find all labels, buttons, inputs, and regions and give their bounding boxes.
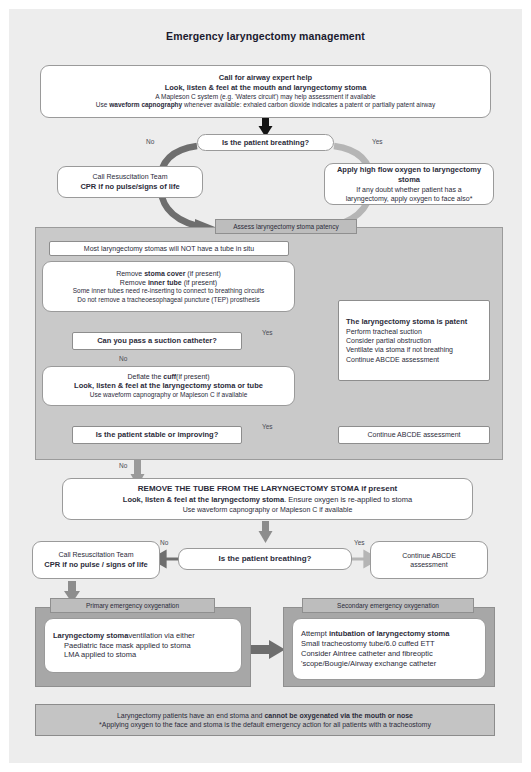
decision1-no-label: No: [146, 138, 154, 145]
stomas-no-tube-note-box: Most laryngectomy stomas will NOT have a…: [49, 241, 289, 256]
decision-is-patient-breathing-2: Is the patient breathing?: [178, 548, 352, 570]
patent-line3: Consider partial obstruction: [346, 336, 482, 345]
decision1-label: Is the patient breathing?: [198, 138, 333, 148]
primary-line3: LMA applied to stoma: [53, 650, 244, 660]
primary-oxygenation-header-label: Primary emergency oxygenation: [86, 602, 179, 609]
resus2-line2: CPR if no pulse / signs of life: [37, 560, 155, 570]
cuff-line2: Look, listen & feel at the laryngectomy …: [48, 381, 289, 391]
continue-abcde-1-label: Continue ABCDE assessment: [339, 430, 489, 439]
remove-tube-from-stoma-box: REMOVE THE TUBE FROM THE LARYNGECTOMY ST…: [62, 478, 473, 520]
footer-line1: Laryngectomy patients have an end stoma …: [42, 711, 488, 720]
remove-stoma-cover-box: Remove stoma cover (if present) Remove i…: [42, 261, 295, 312]
removetube-line3: Use waveform capnography or Mapleson C i…: [69, 505, 466, 514]
flowchart-page: Emergency laryngectomy management: [0, 0, 531, 772]
continue-abcde-2-line1: Continue ABCDE: [375, 551, 483, 560]
decision-can-you-pass-suction-catheter: Can you pass a suction catheter?: [72, 332, 242, 350]
decision1-yes-label: Yes: [372, 138, 383, 145]
stoma-is-patent-box: The laryngectomy stoma is patent Perform…: [338, 300, 490, 381]
decision-is-patient-breathing-1: Is the patient breathing?: [197, 134, 334, 151]
continue-abcde-assessment-box-2: Continue ABCDE assessment: [370, 541, 488, 579]
decision2-label: Is the patient breathing?: [179, 554, 351, 565]
suction-no-label: No: [119, 355, 127, 362]
secondary-line2: Small tracheostomy tube/6.0 cuffed ETT: [301, 639, 477, 649]
decision-is-patient-stable-or-improving: Is the patient stable or improving?: [72, 426, 242, 444]
remove-line3: Some inner tubes need re-inserting to co…: [48, 287, 289, 296]
removetube-line1: REMOVE THE TUBE FROM THE LARYNGECTOMY ST…: [69, 484, 466, 495]
primary-oxygenation-content-box: Laryngectomy stomaventilation via either…: [44, 618, 242, 673]
top-box-line3: A Mapleson C system (e.g. 'Waters circui…: [47, 93, 484, 102]
primary-oxygenation-header: Primary emergency oxygenation: [50, 598, 215, 613]
continue-abcde-2-line2: assessment: [375, 560, 483, 569]
remove-line2: Remove inner tube (if present): [48, 278, 289, 287]
resus1-line2: CPR if no pulse/signs of life: [62, 182, 198, 192]
panel-header-label: Assess laryngectomy stoma patency: [233, 223, 339, 230]
secondary-oxygenation-header-label: Secondary emergency oxygenation: [337, 602, 439, 609]
primary-line2: Paediatric face mask applied to stoma: [53, 641, 244, 651]
top-box-line4: Use waveform capnography whenever availa…: [47, 101, 484, 110]
removetube-line2: Look, listen & feel at the laryngectomy …: [69, 495, 466, 505]
secondary-line4: 'scope/Bougie/Airway exchange catheter: [301, 659, 477, 669]
patent-line1: The laryngectomy stoma is patent: [346, 317, 482, 327]
footer-note-box: Laryngectomy patients have an end stoma …: [35, 704, 495, 736]
page-title: Emergency laryngectomy management: [0, 30, 531, 42]
resus2-line1: Call Resuscitation Team: [37, 550, 155, 559]
suction-yes-label: Yes: [262, 329, 273, 336]
patent-line2: Perform tracheal suction: [346, 327, 482, 336]
decision2-no-label: No: [160, 539, 168, 546]
oxygen-line3: laryngectomy, apply oxygen to face also*: [330, 194, 488, 203]
patent-line4: Ventilate via stoma if not breathing: [346, 345, 482, 354]
call-for-help-box: Call for airway expert help Look, listen…: [40, 65, 491, 118]
call-resuscitation-team-box-1: Call Resuscitation Team CPR if no pulse/…: [57, 166, 203, 198]
arrow-primary-to-secondary: [249, 640, 285, 659]
primary-line1: Laryngectomy stomaventilation via either: [53, 631, 233, 641]
panel-header-assess-stoma-patency: Assess laryngectomy stoma patency: [215, 219, 357, 234]
remove-line4: Do not remove a tracheoesophageal punctu…: [48, 296, 289, 305]
resus1-line1: Call Resuscitation Team: [62, 172, 198, 181]
remove-line1: Remove stoma cover (if present): [48, 269, 289, 278]
cuff-line1: Deflate the cuff(if present): [48, 372, 289, 381]
oxygen-line1: Apply high flow oxygen to laryngectomy s…: [330, 165, 488, 185]
suction-decision-label: Can you pass a suction catheter?: [73, 336, 241, 346]
top-box-line2: Look, listen & feel at the mouth and lar…: [47, 83, 484, 93]
cuff-line3: Use waveform capnography or Mapleson C i…: [48, 391, 289, 400]
patent-line5: Continue ABCDE assessment: [346, 355, 482, 364]
stable-yes-label: Yes: [262, 423, 273, 430]
top-box-line1: Call for airway expert help: [47, 73, 484, 83]
deflate-cuff-box: Deflate the cuff(if present) Look, liste…: [42, 366, 295, 406]
stable-decision-label: Is the patient stable or improving?: [73, 430, 241, 440]
secondary-oxygenation-header: Secondary emergency oxygenation: [302, 598, 474, 613]
oxygen-line2: If any doubt whether patient has a: [330, 185, 488, 194]
secondary-line3: Consider Aintree catheter and fibreoptic: [301, 649, 477, 659]
arrow-removetube-to-decision2: [259, 521, 273, 543]
footer-line2: *Applying oxygen to the face and stoma i…: [42, 720, 488, 729]
secondary-oxygenation-content-box: Attempt intubation of laryngectomy stoma…: [292, 618, 486, 680]
decision2-yes-label: Yes: [354, 539, 365, 546]
apply-high-flow-oxygen-box: Apply high flow oxygen to laryngectomy s…: [324, 163, 494, 205]
note-box-label: Most laryngectomy stomas will NOT have a…: [50, 244, 288, 253]
call-resuscitation-team-box-2: Call Resuscitation Team CPR if no pulse …: [32, 541, 160, 579]
stable-no-label: No: [119, 462, 127, 469]
continue-abcde-assessment-box-1: Continue ABCDE assessment: [338, 426, 490, 444]
secondary-line1: Attempt intubation of laryngectomy stoma: [301, 629, 477, 639]
